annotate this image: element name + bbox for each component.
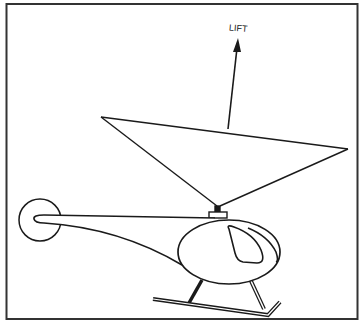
rotor-disk-cone [101, 117, 348, 206]
rotor-hub [209, 206, 227, 218]
lift-label: LIFT [229, 22, 249, 34]
helicopter-lift-diagram: LIFT [0, 0, 364, 330]
figure-frame [7, 4, 358, 319]
lift-arrow [228, 38, 241, 129]
arrowhead-icon [233, 38, 241, 52]
